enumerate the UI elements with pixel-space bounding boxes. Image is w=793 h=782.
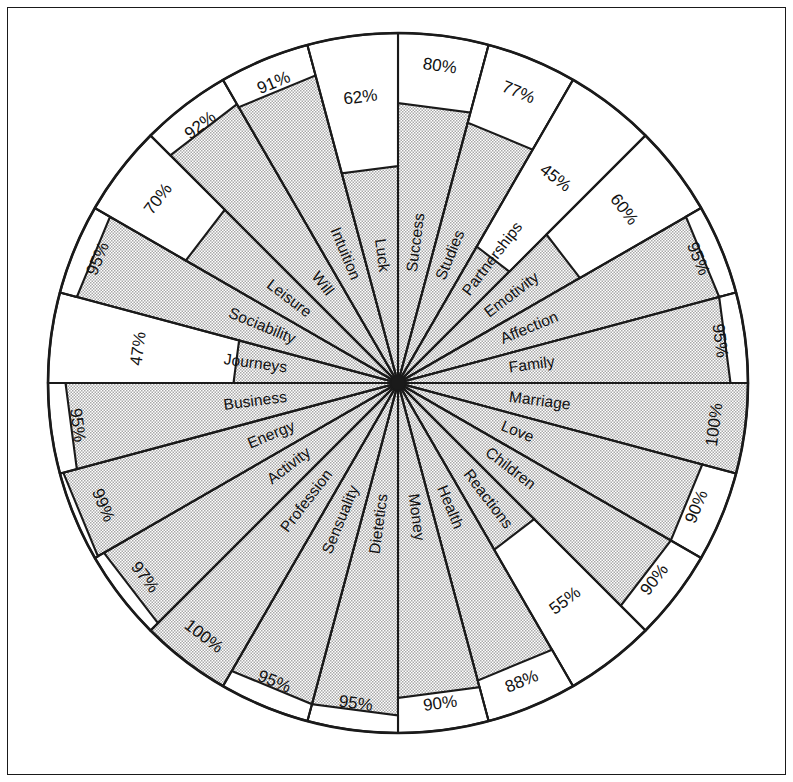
center-hub <box>391 376 405 390</box>
wheel-svg: SuccessStudiesPartnershipsEmotivityAffec… <box>0 0 793 782</box>
radar-wheel-chart: SuccessStudiesPartnershipsEmotivityAffec… <box>0 0 793 782</box>
